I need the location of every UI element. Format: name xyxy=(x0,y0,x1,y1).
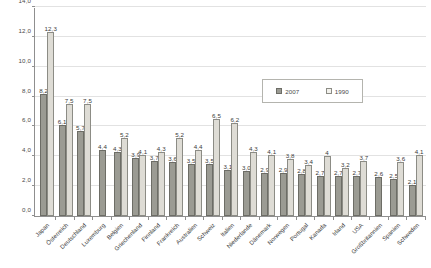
bar-group: 3,04,3 xyxy=(241,8,259,216)
bar-group: 2,73,7 xyxy=(351,8,369,216)
light-gray-swatch-icon xyxy=(326,88,332,94)
y-axis-tick-label: 10,0 xyxy=(19,56,31,63)
x-axis-label-cell: Portugal xyxy=(296,221,314,268)
bar-value-label: 4,3 xyxy=(157,145,166,152)
y-axis-tick-label: 0,0 xyxy=(22,206,31,213)
bar-group: 2,14,1 xyxy=(406,8,424,216)
bar: 5,2 xyxy=(121,138,128,216)
y-axis-tick-mark xyxy=(32,6,35,7)
bar: 6,5 xyxy=(213,119,220,216)
x-axis-label-cell: Norwegen xyxy=(277,221,295,268)
x-axis-label-cell: Schweden xyxy=(406,221,424,268)
gridline xyxy=(35,6,426,7)
bar-group: 3,65,2 xyxy=(167,8,185,216)
bar: 12,3 xyxy=(47,32,54,216)
bar-value-label: 3,2 xyxy=(341,161,350,168)
bar-value-label: 4 xyxy=(325,149,329,156)
bar: 7,5 xyxy=(66,104,73,216)
bar: 3,1 xyxy=(224,170,231,216)
bar: 2,9 xyxy=(280,173,287,216)
bar-value-label: 5,2 xyxy=(175,131,184,138)
x-axis-label: Irland xyxy=(331,222,346,237)
bar: 2,9 xyxy=(261,173,268,216)
bar-value-label: 4,1 xyxy=(415,148,424,155)
bar: 2,7 xyxy=(317,176,324,216)
x-axis-label-cell: Niederlande xyxy=(240,221,258,268)
chart-legend: 2007 1990 xyxy=(262,79,363,103)
bar-group: 2,53,6 xyxy=(388,8,406,216)
bar-value-label: 5,2 xyxy=(120,131,129,138)
bar-value-label: 4,4 xyxy=(98,143,107,150)
bar-value-label: 3,7 xyxy=(359,154,368,161)
bar: 3,4 xyxy=(305,165,312,216)
bar: 6,2 xyxy=(231,123,238,216)
bar-group: 5,77,5 xyxy=(75,8,93,216)
x-axis-label-cell: Dänemark xyxy=(259,221,277,268)
bar-chart: 0,02,04,06,08,010,012,014,0 8,212,36,17,… xyxy=(0,0,431,268)
x-axis-labels: JapanÖsterreichDeutschlandLuxemburgBelgi… xyxy=(34,221,426,268)
y-axis-tick-label: 6,0 xyxy=(22,116,31,123)
bar: 5,7 xyxy=(77,131,84,216)
y-axis-tick-label: 8,0 xyxy=(22,86,31,93)
y-axis-tick-label: 12,0 xyxy=(19,26,31,33)
bar: 2,8 xyxy=(298,174,305,216)
bar-group: 3,16,2 xyxy=(222,8,240,216)
bar-group: 3,74,3 xyxy=(149,8,167,216)
bar: 3,2 xyxy=(342,168,349,216)
x-axis-label-cell: Kanada xyxy=(314,221,332,268)
bar: 4,1 xyxy=(416,155,423,216)
bar-group: 4,4 xyxy=(93,8,111,216)
y-axis-tick-label: 4,0 xyxy=(22,146,31,153)
legend-item-2007: 2007 xyxy=(276,88,299,95)
x-axis-label-cell: Luxemburg xyxy=(92,221,110,268)
x-axis-label: USA xyxy=(351,222,364,235)
bar: 3,6 xyxy=(169,162,176,216)
bar-group: 3,94,1 xyxy=(130,8,148,216)
bar-value-label: 4,1 xyxy=(138,148,147,155)
x-axis-label-cell: Japan xyxy=(37,221,55,268)
bar: 4,1 xyxy=(268,155,275,216)
bar-value-label: 2,6 xyxy=(374,170,383,177)
bar: 3,7 xyxy=(151,161,158,216)
bar: 2,1 xyxy=(409,185,416,216)
bar-value-label: 7,5 xyxy=(83,97,92,104)
bar: 4 xyxy=(324,156,331,216)
bar: 3,6 xyxy=(397,162,404,216)
bar: 2,7 xyxy=(353,176,360,216)
x-axis-label-cell: Spanien xyxy=(388,221,406,268)
bar: 3,7 xyxy=(360,161,367,216)
x-axis-label-cell: Griechenland xyxy=(129,221,147,268)
dark-gray-swatch-icon xyxy=(276,88,282,94)
bar: 2,6 xyxy=(375,177,382,216)
bar-group: 3,54,4 xyxy=(185,8,203,216)
y-axis-tick-label: 2,0 xyxy=(22,176,31,183)
y-axis-tick-label: 14,0 xyxy=(19,0,31,4)
bar-value-label: 4,1 xyxy=(267,148,276,155)
bar-value-label: 6,5 xyxy=(212,112,221,119)
legend-item-1990: 1990 xyxy=(326,88,349,95)
bar: 6,1 xyxy=(59,125,66,216)
bar-value-label: 12,3 xyxy=(44,25,56,32)
bar: 2,7 xyxy=(335,176,342,216)
x-axis-label: Japan xyxy=(34,222,50,238)
bar-value-label: 3,8 xyxy=(286,152,295,159)
bars-layer: 8,212,36,17,55,77,54,44,35,23,94,13,74,3… xyxy=(35,8,426,216)
bar-group: 2,73,2 xyxy=(333,8,351,216)
bar-value-label: 4,4 xyxy=(194,143,203,150)
x-axis-label-cell: Schweiz xyxy=(203,221,221,268)
bar: 4,3 xyxy=(158,152,165,216)
bar: 3,0 xyxy=(243,171,250,216)
x-axis-label-cell: Großbritannien xyxy=(369,221,387,268)
bar: 3,5 xyxy=(206,164,213,216)
x-axis-label-cell: Frankreich xyxy=(166,221,184,268)
bar: 4,4 xyxy=(195,150,202,216)
plot-area: 0,02,04,06,08,010,012,014,0 8,212,36,17,… xyxy=(34,8,426,217)
legend-label: 1990 xyxy=(335,88,349,95)
x-axis-label-cell: Australien xyxy=(185,221,203,268)
bar-group: 2,93,8 xyxy=(277,8,295,216)
bar-group: 2,94,1 xyxy=(259,8,277,216)
bar-value-label: 7,5 xyxy=(65,97,74,104)
bar: 4,3 xyxy=(250,152,257,216)
bar-group: 8,212,3 xyxy=(38,8,56,216)
bar-value-label: 4,3 xyxy=(249,145,258,152)
